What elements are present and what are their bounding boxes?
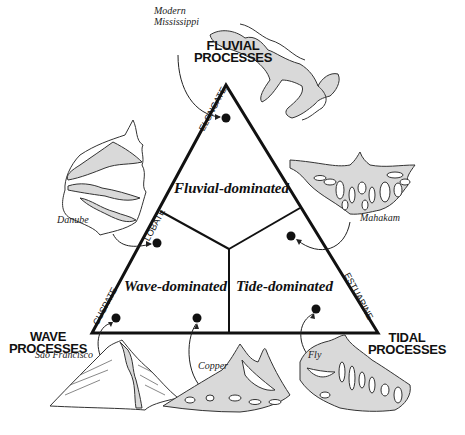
fly-marker: [312, 305, 321, 314]
mahakam-sketch: [290, 152, 415, 214]
fluvial-processes-label: FLUVIAL PROCESSES: [193, 40, 273, 64]
tidal-processes-label: TIDAL PROCESSES: [366, 332, 448, 356]
ternary-diagram: FLUVIAL PROCESSES WAVE PROCESSES TIDAL P…: [0, 0, 465, 435]
delta-label-mississippi: Modern Mississippi: [154, 5, 199, 27]
delta-label-danube: Danube: [57, 214, 89, 225]
delta-label-sao-francisco: São Francisco: [35, 349, 93, 360]
mississippi-line1: Modern: [154, 5, 199, 16]
fluvial-label-line2: PROCESSES: [193, 52, 273, 64]
mahakam-marker: [287, 232, 296, 241]
region-tide-dominated: Tide-dominated: [236, 278, 333, 295]
mississippi-marker: [222, 114, 231, 123]
region-fluvial-dominated: Fluvial-dominated: [174, 180, 289, 197]
danube-marker: [153, 239, 162, 248]
copper-marker: [193, 314, 202, 323]
copper-sketch: [163, 344, 290, 412]
delta-label-fly: Fly: [308, 349, 321, 360]
region-dividers: [160, 208, 300, 333]
mississippi-line2: Mississippi: [154, 16, 199, 27]
delta-label-copper: Copper: [198, 360, 228, 371]
sao-francisco-marker: [112, 314, 121, 323]
region-wave-dominated: Wave-dominated: [124, 278, 227, 295]
delta-label-mahakam: Mahakam: [360, 212, 400, 223]
tidal-label-line2: PROCESSES: [366, 344, 448, 356]
